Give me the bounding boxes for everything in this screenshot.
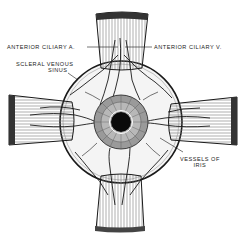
label-vessels-of-iris: VESSELS OF IRIS <box>180 156 220 168</box>
label-scleral-venous-sinus: SCLERAL VENOUS SINUS <box>16 61 73 73</box>
medial-rectus-muscle <box>9 95 74 145</box>
inferior-rectus-muscle <box>95 174 145 233</box>
pupil <box>110 111 133 134</box>
label-scleral-venous-sinus-line2: SINUS <box>16 67 73 73</box>
label-anterior-ciliary-artery: ANTERIOR CILIARY A. <box>7 44 75 50</box>
lateral-rectus-muscle <box>169 97 238 145</box>
label-anterior-ciliary-vein: ANTERIOR CILIARY V. <box>154 44 222 50</box>
superior-rectus-muscle <box>96 12 148 70</box>
label-vessels-of-iris-line2: IRIS <box>180 162 220 168</box>
eyeball-diagram <box>0 0 245 235</box>
